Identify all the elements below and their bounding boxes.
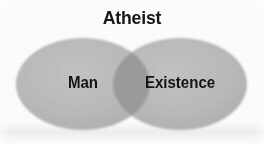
venn-canvas — [0, 0, 264, 144]
venn-label-left: Man — [27, 74, 140, 92]
venn-label-right: Existence — [124, 74, 237, 92]
venn-diagram-figure: Atheist Man Existence — [0, 0, 264, 144]
